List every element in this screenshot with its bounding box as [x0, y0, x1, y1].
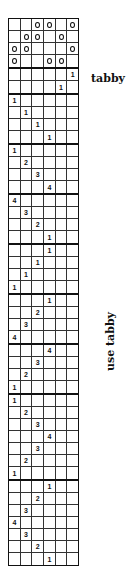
grid-cell [32, 481, 44, 493]
grid-cell [9, 231, 21, 243]
grid-cell [56, 407, 68, 419]
grid-cell: 2 [32, 307, 44, 319]
grid-cell: 1 [44, 131, 56, 143]
grid-cell [44, 55, 56, 67]
grid-cell [56, 169, 68, 181]
circle-mark-icon [24, 46, 29, 52]
grid-cell [9, 431, 21, 443]
circle-mark-icon [59, 58, 64, 64]
grid-cell [32, 517, 44, 529]
grid-cell [56, 119, 68, 131]
grid-row: 1 [9, 69, 78, 81]
grid-row: 4 [9, 195, 78, 207]
grid-cell [67, 119, 78, 131]
tabby-section: 11 [9, 69, 78, 95]
grid-cell [44, 207, 56, 219]
treadling-block: 1111 [9, 95, 78, 145]
grid-cell [56, 55, 68, 67]
grid-cell [44, 269, 56, 281]
grid-cell [21, 381, 33, 393]
grid-cell: 4 [9, 195, 21, 207]
grid-cell [21, 295, 33, 307]
grid-cell [32, 181, 44, 193]
grid-row: 3 [9, 169, 78, 181]
grid-cell [56, 493, 68, 505]
grid-cell [44, 307, 56, 319]
grid-row: 1 [9, 131, 78, 143]
grid-cell [21, 431, 33, 443]
grid-cell [44, 467, 56, 479]
grid-cell: 1 [32, 257, 44, 269]
grid-row: 4 [9, 181, 78, 193]
grid-cell [9, 245, 21, 257]
grid-cell [44, 455, 56, 467]
grid-cell [32, 107, 44, 119]
grid-cell [67, 257, 78, 269]
grid-cell [32, 295, 44, 307]
grid-row: 2 [9, 541, 78, 553]
grid-cell: 3 [32, 419, 44, 431]
grid-cell: 1 [9, 95, 21, 107]
grid-cell [67, 31, 78, 43]
grid-row: 1 [9, 467, 78, 479]
grid-cell [44, 541, 56, 553]
grid-cell [56, 307, 68, 319]
grid-cell [9, 169, 21, 181]
grid-cell [56, 319, 68, 331]
grid-cell: 2 [32, 541, 44, 553]
grid-cell [9, 257, 21, 269]
grid-cell [44, 219, 56, 231]
grid-cell [67, 231, 78, 243]
circle-mark-icon [24, 34, 29, 40]
grid-cell [21, 493, 33, 505]
grid-cell [56, 19, 68, 31]
grid-row: 1 [9, 295, 78, 307]
grid-cell [32, 281, 44, 293]
grid-cell [67, 419, 78, 431]
grid-cell [32, 269, 44, 281]
grid-row: 2 [9, 369, 78, 381]
grid-cell: 1 [32, 119, 44, 131]
grid-cell [44, 31, 56, 43]
grid-cell [56, 295, 68, 307]
circle-mark-icon [47, 22, 52, 28]
grid-cell [21, 43, 33, 55]
grid-cell: 4 [44, 345, 56, 357]
grid-row [9, 19, 78, 31]
grid-cell [9, 345, 21, 357]
grid-cell [56, 195, 68, 207]
grid-cell [56, 69, 68, 81]
grid-cell [32, 55, 44, 67]
grid-cell: 3 [21, 529, 33, 541]
grid-cell [67, 443, 78, 455]
treadling-block: 1234 [9, 295, 78, 345]
grid-cell [9, 107, 21, 119]
grid-row: 4 [9, 331, 78, 343]
grid-cell [9, 481, 21, 493]
grid-cell [21, 131, 33, 143]
grid-cell [32, 345, 44, 357]
grid-cell: 1 [9, 467, 21, 479]
grid-cell [67, 95, 78, 107]
grid-cell: 3 [21, 319, 33, 331]
grid-cell [44, 145, 56, 157]
grid-cell [56, 553, 68, 565]
grid-cell [9, 419, 21, 431]
grid-cell [44, 529, 56, 541]
grid-cell [21, 481, 33, 493]
grid-cell [32, 145, 44, 157]
grid-cell [44, 331, 56, 343]
grid-cell [44, 169, 56, 181]
grid-cell [67, 269, 78, 281]
grid-cell [44, 81, 56, 93]
grid-cell: 2 [32, 493, 44, 505]
circle-mark-icon [70, 22, 75, 28]
grid-cell [44, 357, 56, 369]
grid-cell [67, 493, 78, 505]
grid-cell [9, 269, 21, 281]
grid-cell [9, 455, 21, 467]
grid-cell [67, 529, 78, 541]
threading-section [9, 19, 78, 69]
grid-cell [44, 157, 56, 169]
grid-cell [32, 529, 44, 541]
